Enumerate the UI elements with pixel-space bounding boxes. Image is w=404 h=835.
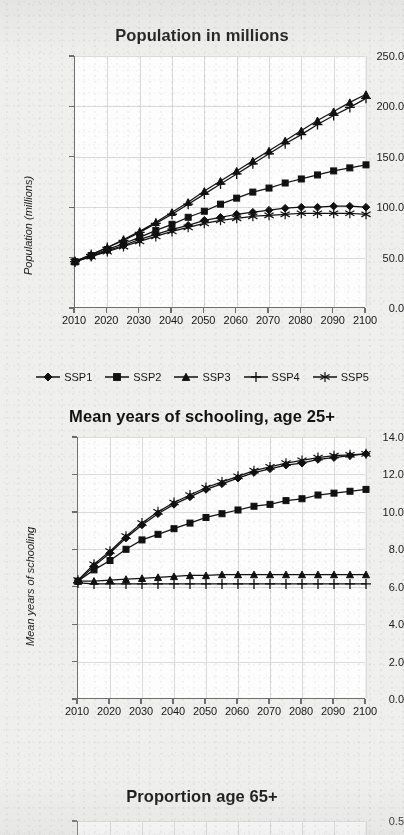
gridline-vertical (366, 437, 367, 698)
x-tick-label: 2040 (161, 705, 185, 717)
x-tick-label: 2050 (191, 314, 215, 326)
legend-label: SSP3 (202, 371, 230, 383)
x-tick-mark (332, 308, 333, 313)
legend-marker-asterisk-icon (312, 371, 338, 383)
x-tick-mark (364, 699, 365, 704)
legend-marker-triangle-icon (173, 371, 199, 383)
x-tick-mark (203, 308, 204, 313)
gridline-vertical (142, 821, 143, 835)
y-axis-label-schooling: Mean years of schooling (24, 527, 36, 646)
gridline-vertical (174, 821, 175, 835)
x-tick-mark (364, 308, 365, 313)
plot-area-population (74, 56, 365, 308)
x-tick-mark (138, 308, 139, 313)
x-tick-label: 2090 (321, 705, 345, 717)
gridline-vertical (110, 821, 111, 835)
legend-marker-plus-icon (243, 371, 269, 383)
x-tick-label: 2050 (193, 705, 217, 717)
gridline-vertical (302, 821, 303, 835)
x-tick-label: 2070 (256, 314, 280, 326)
x-tick-mark (332, 699, 333, 704)
x-tick-mark (300, 699, 301, 704)
x-tick-label: 2030 (129, 705, 153, 717)
x-tick-label: 2060 (224, 314, 248, 326)
x-tick-mark (267, 308, 268, 313)
x-tick-label: 2010 (62, 314, 86, 326)
legend-marker-square-icon (104, 371, 130, 383)
legend-label: SSP2 (133, 371, 161, 383)
chart-title-population: Population in millions (0, 26, 404, 45)
x-tick-mark (236, 699, 237, 704)
x-tick-label: 2070 (257, 705, 281, 717)
series-layer (78, 437, 365, 698)
x-tick-label: 2100 (353, 314, 377, 326)
x-tick-mark (106, 308, 107, 313)
legend-item-ssp3: SSP3 (173, 371, 230, 383)
plot-area-proportion65 (77, 821, 365, 835)
x-tick-mark (170, 308, 171, 313)
chart-title-proportion65: Proportion age 65+ (0, 787, 404, 806)
gridline-vertical (366, 821, 367, 835)
x-tick-mark (172, 699, 173, 704)
x-tick-mark (140, 699, 141, 704)
legend-item-ssp5: SSP5 (312, 371, 369, 383)
x-tick-mark (76, 699, 77, 704)
x-tick-label: 2040 (159, 314, 183, 326)
plot-area-schooling (77, 437, 365, 699)
x-tick-mark (73, 308, 74, 313)
gridline-horizontal (78, 821, 365, 822)
legend-item-ssp4: SSP4 (243, 371, 300, 383)
x-tick-label: 2020 (97, 705, 121, 717)
x-axis-labels-population: 2010202020302040205020602070208020902100 (0, 314, 404, 328)
x-tick-label: 2080 (289, 705, 313, 717)
legend: SSP1 SSP2 SSP3 SSP4 SSP5 (0, 369, 404, 384)
legend-label: SSP5 (341, 371, 369, 383)
gridline-vertical (334, 821, 335, 835)
x-tick-label: 2090 (321, 314, 345, 326)
x-axis-labels-schooling: 2010202020302040205020602070208020902100 (0, 705, 404, 719)
series-layer (75, 56, 365, 307)
gridline-vertical (238, 821, 239, 835)
x-tick-mark (204, 699, 205, 704)
legend-label: SSP4 (272, 371, 300, 383)
x-tick-label: 2010 (65, 705, 89, 717)
y-axis-label-population: Population (millions) (22, 176, 34, 275)
legend-item-ssp2: SSP2 (104, 371, 161, 383)
legend-item-ssp1: SSP1 (35, 371, 92, 383)
legend-marker-diamond-icon (35, 371, 61, 383)
x-tick-mark (108, 699, 109, 704)
x-tick-label: 2100 (353, 705, 377, 717)
chart-title-schooling: Mean years of schooling, age 25+ (0, 407, 404, 426)
x-tick-mark (300, 308, 301, 313)
legend-label: SSP1 (64, 371, 92, 383)
gridline-vertical (270, 821, 271, 835)
gridline-vertical (206, 821, 207, 835)
x-tick-mark (235, 308, 236, 313)
x-tick-label: 2060 (225, 705, 249, 717)
x-tick-label: 2020 (94, 314, 118, 326)
x-tick-mark (268, 699, 269, 704)
x-tick-label: 2030 (127, 314, 151, 326)
x-tick-label: 2080 (288, 314, 312, 326)
